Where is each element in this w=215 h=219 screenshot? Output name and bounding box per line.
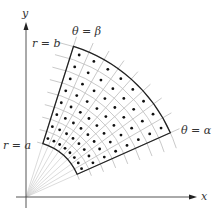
sample-point (70, 106, 73, 109)
sample-point (83, 148, 86, 151)
sample-point (64, 147, 67, 150)
sample-point (55, 113, 58, 116)
y-axis-arrow-icon (24, 22, 29, 30)
sample-point (88, 117, 91, 120)
sample-point (93, 89, 96, 92)
sample-point (122, 116, 125, 119)
sample-point (64, 117, 67, 120)
sample-point (137, 138, 140, 141)
sample-point (109, 141, 112, 144)
x-axis-label: x (201, 190, 208, 203)
sample-point (98, 148, 101, 151)
sample-point (106, 68, 109, 71)
sample-point (122, 97, 125, 100)
sample-point (78, 54, 81, 57)
sample-point (73, 66, 76, 69)
x-axis-arrow-icon (189, 195, 197, 200)
sample-point (75, 94, 78, 97)
polar-region-diagram: x y r = a r = b θ = α θ = β (0, 0, 215, 219)
sample-point (80, 127, 83, 130)
outer-radius-label: r = b (32, 37, 61, 50)
sample-point (72, 137, 75, 140)
sample-point (80, 167, 83, 170)
sample-point (103, 132, 106, 135)
sample-point (160, 127, 163, 130)
sample-point (148, 132, 151, 135)
sample-point (100, 79, 103, 82)
sample-point (77, 162, 80, 165)
sample-point (142, 100, 145, 103)
sample-point (113, 106, 116, 109)
sample-point (58, 143, 61, 146)
sample-point (87, 71, 90, 74)
sample-point (60, 101, 63, 104)
sample-point (130, 127, 133, 130)
sample-point (103, 97, 106, 100)
sample-point (96, 107, 99, 110)
sample-point (81, 83, 84, 86)
sample-point (88, 155, 91, 158)
sample-point (95, 124, 98, 127)
polar-grid (37, 37, 179, 180)
theta-beta-label: θ = β (72, 25, 101, 38)
sample-point (152, 113, 155, 116)
sample-point (141, 120, 144, 123)
sample-point (126, 144, 129, 147)
sample-point (86, 100, 89, 103)
sample-point (78, 142, 81, 145)
theta-alpha-label: θ = α (181, 124, 212, 137)
inner-radius-label: r = a (3, 139, 31, 152)
sample-point (69, 77, 72, 80)
sample-point (69, 151, 72, 154)
sample-point (51, 125, 54, 128)
sample-point (103, 156, 106, 159)
sample-point (93, 140, 96, 143)
sample-point (86, 133, 89, 136)
sample-point (72, 122, 75, 125)
sample-point (104, 115, 107, 118)
sample-point (131, 88, 134, 91)
sample-point (58, 128, 61, 131)
sample-point (111, 87, 114, 90)
y-axis-label: y (21, 7, 29, 20)
sample-point (92, 161, 95, 164)
sample-point (53, 140, 56, 143)
region-boundary (43, 46, 171, 174)
sample-points (46, 54, 162, 170)
sample-point (46, 137, 49, 140)
sample-point (79, 111, 82, 114)
sample-point (119, 77, 122, 80)
sample-point (73, 156, 76, 159)
sample-point (65, 132, 68, 135)
sample-point (120, 134, 123, 137)
sample-point (64, 89, 67, 92)
sample-point (113, 124, 116, 127)
sample-point (92, 60, 95, 63)
sample-point (114, 150, 117, 153)
sample-point (132, 108, 135, 111)
